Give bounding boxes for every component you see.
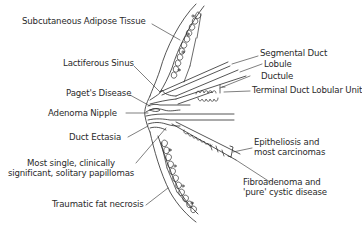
adipose-lobules-lower: [161, 140, 196, 213]
segmental-duct-upper: [160, 62, 228, 92]
label-epitheliosis-line2: most carcinomas: [254, 147, 325, 157]
label-pagets-disease: Paget's Disease: [66, 88, 131, 98]
ductule-upper: [176, 76, 246, 99]
label-epitheliosis-line1: Epitheliosis and: [254, 137, 325, 147]
label-fibroadenoma: Fibroadenoma and 'pure' cystic disease: [243, 177, 327, 197]
label-traumatic-fat-necrosis: Traumatic fat necrosis: [52, 199, 144, 209]
label-fibroadenoma-line2: 'pure' cystic disease: [243, 187, 327, 197]
epitheliosis-bracket: [228, 146, 233, 157]
label-lactiferous-sinus: Lactiferous Sinus: [63, 58, 134, 68]
label-segmental-duct: Segmental Duct: [260, 48, 327, 58]
nipple-duct-1: [148, 104, 190, 106]
label-subcutaneous-adipose-tissue: Subcutaneous Adipose Tissue: [22, 16, 146, 26]
label-adenoma-nipple: Adenoma Nipple: [48, 108, 117, 118]
label-solitary-papillomas-line2: significant, solitary papillomas: [4, 168, 138, 178]
label-ductule: Ductule: [261, 71, 293, 81]
label-lobule: Lobule: [264, 59, 292, 69]
adipose-lobules-upper: [171, 12, 201, 82]
label-epitheliosis: Epitheliosis and most carcinomas: [254, 137, 325, 157]
label-terminal-duct-lobular-unit: Terminal Duct Lobular Unit: [252, 85, 362, 95]
label-solitary-papillomas: Most single, clinically significant, sol…: [4, 158, 138, 178]
skin-contour-upper: [150, 4, 196, 96]
label-fibroadenoma-line1: Fibroadenoma and: [243, 177, 327, 187]
label-duct-ectasia: Duct Ectasia: [69, 132, 121, 142]
label-solitary-papillomas-line1: Most single, clinically: [4, 158, 138, 168]
